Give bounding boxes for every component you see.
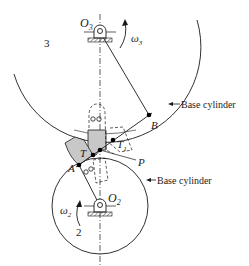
label-p: P <box>137 156 145 168</box>
label-omega2: ω2 <box>60 204 72 219</box>
label-gear3: 3 <box>44 37 50 49</box>
rivet-icon <box>84 170 88 174</box>
leader-arrow-icon <box>146 178 156 182</box>
point-a <box>77 163 82 168</box>
rivet-icon <box>91 117 95 121</box>
label-a: A <box>67 162 75 174</box>
label-base-cylinder-top: Base cylinder <box>181 99 236 110</box>
label-o3: O3 <box>80 16 93 32</box>
label-omega3: ω3 <box>131 32 143 47</box>
rivet-icon <box>89 167 93 171</box>
gear-contact-diagram: O3 ω3 3 Base cylinder B T1 T P A Base cy… <box>0 0 249 266</box>
omega3-rotation-arrow-icon <box>120 19 128 48</box>
rivet-icon <box>97 117 101 121</box>
point-b <box>147 113 152 118</box>
label-t: T <box>80 147 87 159</box>
label-gear2: 2 <box>76 226 82 238</box>
leader-arrow-icon <box>168 102 180 106</box>
point-t <box>91 153 96 158</box>
gear2-tooth-dashed-outline <box>93 158 108 183</box>
label-o2: O2 <box>108 191 121 207</box>
label-b: B <box>151 119 158 131</box>
point-pitch <box>98 148 103 153</box>
label-base-cylinder-bottom: Base cylinder <box>157 175 212 186</box>
omega2-rotation-arrow-icon <box>76 200 82 226</box>
point-t1 <box>111 138 116 143</box>
